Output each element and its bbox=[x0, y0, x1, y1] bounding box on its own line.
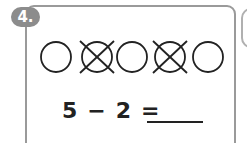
answer-blank[interactable] bbox=[147, 121, 203, 123]
subtrahend: 2 bbox=[116, 98, 132, 123]
circle-1 bbox=[41, 42, 71, 72]
crossed-circle-2 bbox=[80, 41, 114, 73]
crossed-circle-4 bbox=[153, 41, 187, 73]
minuend: 5 bbox=[62, 98, 78, 123]
equals-sign: = bbox=[141, 98, 160, 123]
circle-5 bbox=[193, 42, 223, 72]
minus-operator: − bbox=[87, 98, 106, 123]
circle-3 bbox=[117, 42, 147, 72]
